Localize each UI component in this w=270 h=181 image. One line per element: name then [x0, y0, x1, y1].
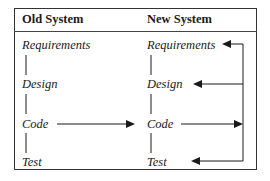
arrow-right-icon — [234, 120, 243, 128]
arrow-right-icon — [126, 120, 135, 128]
arrow-left-icon — [191, 157, 200, 165]
arrow-left-icon — [193, 80, 202, 88]
arrow-left-icon — [222, 40, 231, 48]
connector-lines — [0, 0, 270, 181]
